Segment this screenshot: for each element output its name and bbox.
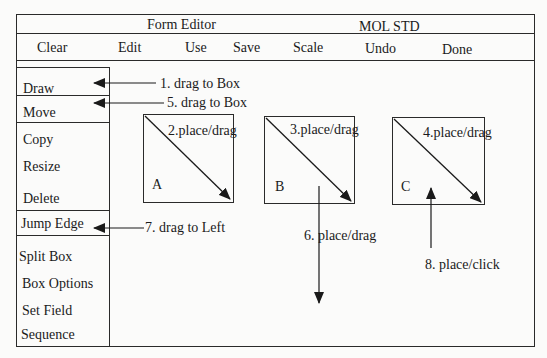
sidebar-item-set-field[interactable]: Set Field <box>22 304 72 318</box>
menu-undo[interactable]: Undo <box>365 42 396 56</box>
menu-clear[interactable]: Clear <box>37 41 67 55</box>
annotation-step6: 6. place/drag <box>304 229 376 243</box>
annotation-step4: 4.place/drag <box>423 126 492 140</box>
sidebar-divider <box>16 235 110 236</box>
annotation-step3: 3.place/drag <box>290 123 359 137</box>
sidebar-item-jump-edge[interactable]: Jump Edge <box>21 217 84 231</box>
app-title: Form Editor <box>147 18 216 32</box>
menu-save[interactable]: Save <box>233 41 260 55</box>
sidebar-item-move[interactable]: Move <box>23 106 56 120</box>
menu-use[interactable]: Use <box>185 41 207 55</box>
menu-done[interactable]: Done <box>442 43 472 57</box>
sidebar-item-delete[interactable]: Delete <box>23 192 60 206</box>
annotation-step7: 7. drag to Left <box>145 221 225 235</box>
annotation-step1: 1. drag to Box <box>160 77 240 91</box>
sidebar-divider <box>16 122 110 123</box>
menu-edit[interactable]: Edit <box>118 41 141 55</box>
menu-scale[interactable]: Scale <box>293 41 323 55</box>
box-c-label: C <box>401 180 410 194</box>
sidebar-item-draw[interactable]: Draw <box>23 82 54 96</box>
sidebar-item-copy[interactable]: Copy <box>23 133 53 147</box>
sidebar-item-box-options[interactable]: Box Options <box>22 277 93 291</box>
sidebar-item-split-box[interactable]: Split Box <box>19 250 72 264</box>
annotation-step8: 8. place/click <box>425 258 500 272</box>
document-name: MOL STD <box>359 20 420 34</box>
box-b-label: B <box>275 180 284 194</box>
sidebar-divider <box>16 210 110 211</box>
annotation-step2: 2.place/drag <box>168 124 237 138</box>
sidebar-item-sequence[interactable]: Sequence <box>21 328 75 342</box>
menu-bar: Clear Edit Use Save Scale Undo Done <box>16 34 535 61</box>
box-a-label: A <box>152 178 162 192</box>
title-bar: Form Editor MOL STD <box>16 14 535 34</box>
annotation-step5: 5. drag to Box <box>167 96 247 110</box>
sidebar-item-resize[interactable]: Resize <box>23 160 60 174</box>
